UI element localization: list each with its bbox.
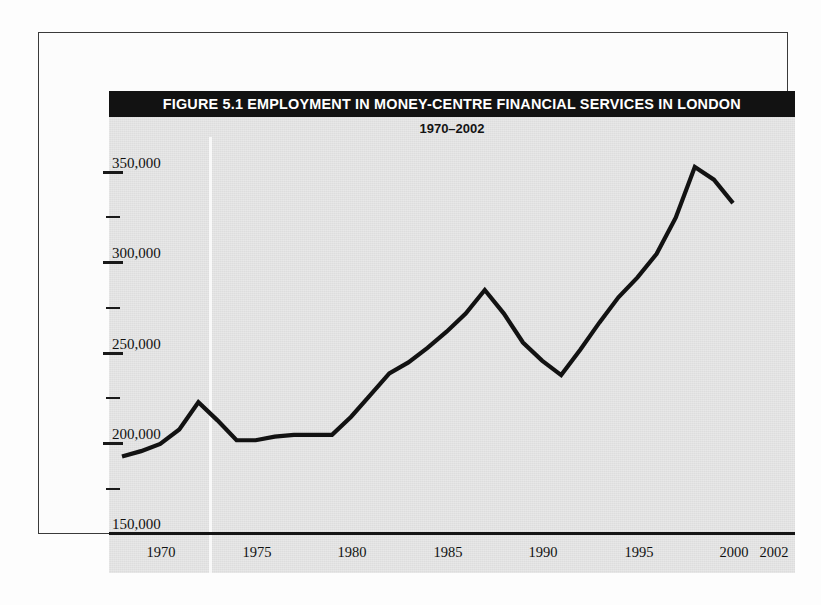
y-tick-label-350000: 350,000 [112, 155, 161, 172]
x-tick-label-1970: 1970 [147, 544, 176, 561]
figure-title-bar: FIGURE 5.1 EMPLOYMENT IN MONEY-CENTRE FI… [109, 91, 795, 117]
y-tick-minor-225000 [106, 397, 120, 399]
figure-title: FIGURE 5.1 EMPLOYMENT IN MONEY-CENTRE FI… [163, 95, 741, 113]
y-tick-minor-175000 [106, 488, 120, 490]
x-tick-label-1990: 1990 [529, 544, 558, 561]
y-tick-minor-325000 [106, 216, 120, 218]
page-gutter-band [209, 137, 212, 573]
y-tick-label-300000: 300,000 [112, 245, 161, 262]
y-tick-label-150000: 150,000 [112, 516, 161, 533]
x-tick-label-1995: 1995 [625, 544, 654, 561]
x-tick-label-1980: 1980 [338, 544, 367, 561]
x-axis-line [109, 532, 795, 535]
figure-page: FIGURE 5.1 EMPLOYMENT IN MONEY-CENTRE FI… [0, 0, 821, 605]
figure-subtitle: 1970–2002 [109, 121, 795, 136]
y-tick-label-250000: 250,000 [112, 336, 161, 353]
x-tick-label-1985: 1985 [434, 544, 463, 561]
figure-frame: FIGURE 5.1 EMPLOYMENT IN MONEY-CENTRE FI… [38, 32, 788, 534]
x-tick-label-1975: 1975 [243, 544, 272, 561]
x-tick-label-2002: 2002 [760, 544, 789, 561]
y-tick-minor-275000 [106, 307, 120, 309]
x-tick-label-2000: 2000 [720, 544, 749, 561]
y-tick-label-200000: 200,000 [112, 426, 161, 443]
